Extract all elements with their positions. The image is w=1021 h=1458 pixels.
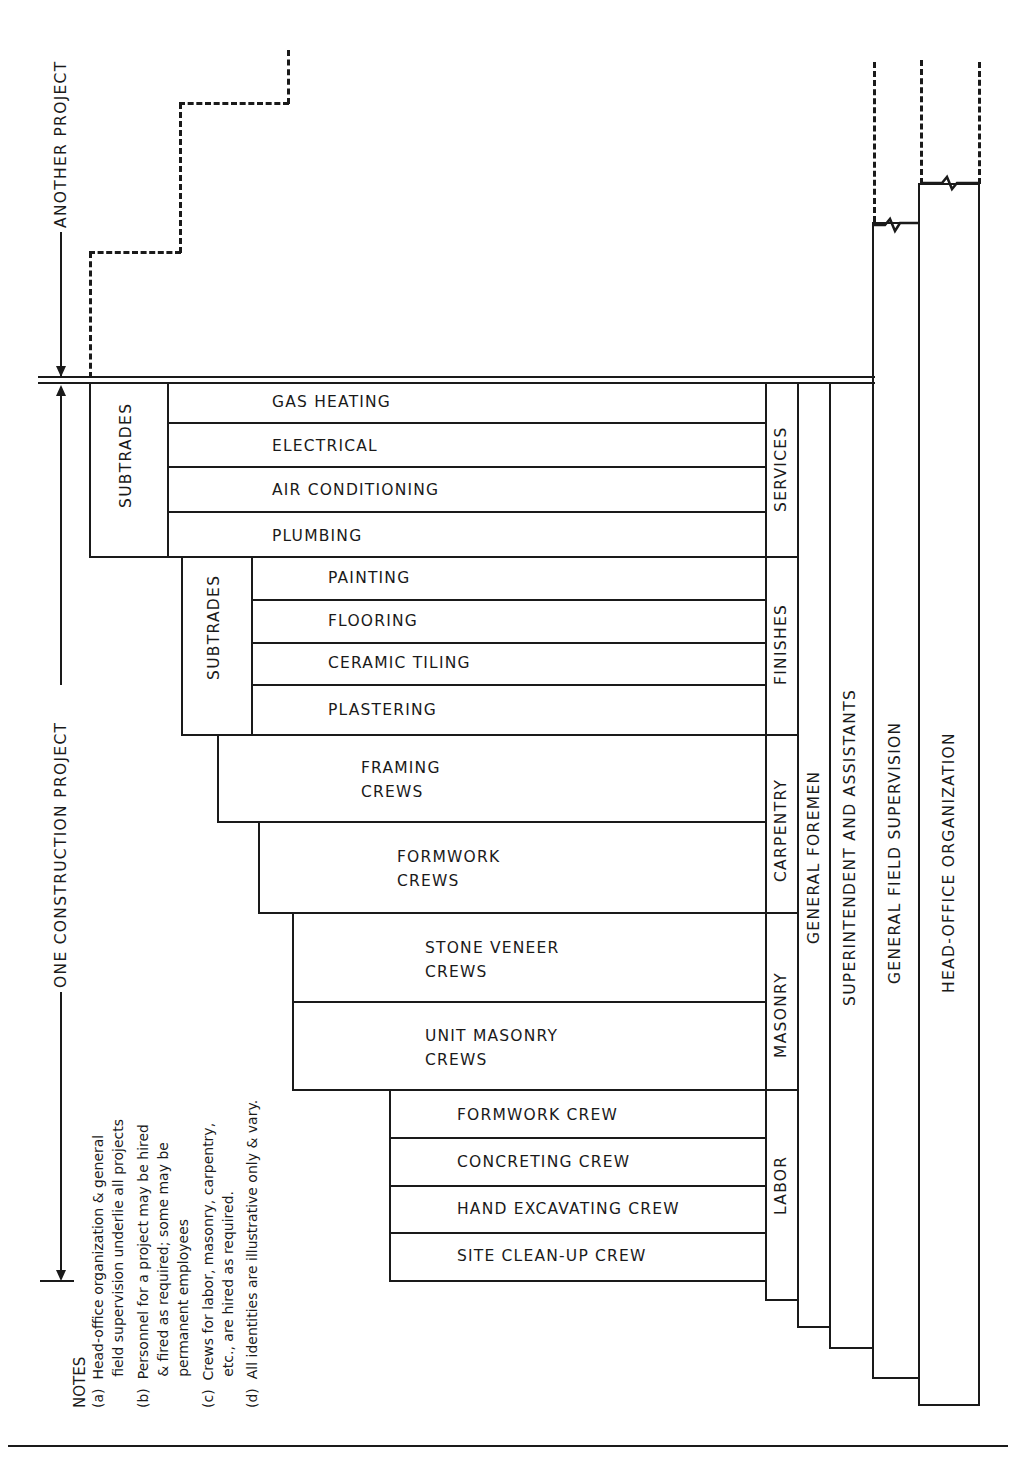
service-item: ELECTRICAL (272, 435, 378, 457)
service-item: GAS HEATING (272, 391, 391, 413)
finish-item: FLOORING (328, 610, 418, 632)
category-carpentry: CARPENTRY (772, 779, 790, 882)
head-office-organization: HEAD-OFFICE ORGANIZATION (918, 183, 980, 1406)
stone-veneer-line1: STONE VENEER (425, 936, 560, 960)
note-b: (b) Personnel for a project may be hired… (133, 1124, 193, 1408)
finish-item: PLASTERING (328, 699, 437, 721)
formwork-crews: FORMWORK CREWS (258, 821, 766, 914)
subtrades-label: SUBTRADES (117, 403, 135, 508)
general-field-supervision: GENERAL FIELD SUPERVISION (872, 222, 920, 1379)
finish-item: PAINTING (328, 567, 410, 589)
general-foremen: GENERAL FOREMEN (797, 382, 831, 1328)
category-services: SERVICES (772, 426, 790, 512)
formwork-crews-line1: FORMWORK (397, 845, 500, 869)
general-foremen-label: GENERAL FOREMEN (805, 771, 823, 944)
note-a: (a) Head-office organization & general f… (88, 1119, 128, 1408)
framing-crews: FRAMING CREWS (217, 734, 766, 823)
labor-item: HAND EXCAVATING CREW (457, 1198, 680, 1220)
labor-item: FORMWORK CREW (457, 1104, 618, 1126)
service-item: AIR CONDITIONING (272, 479, 439, 501)
service-item: PLUMBING (272, 525, 362, 547)
note-c: (c) Crews for labor, masonry, carpentry,… (198, 1123, 238, 1408)
unit-masonry-line1: UNIT MASONRY (425, 1024, 558, 1048)
superintendent-and-assistants: SUPERINTENDENT AND ASSISTANTS (829, 382, 874, 1349)
stone-veneer-line2: CREWS (425, 960, 560, 984)
finish-item: CERAMIC TILING (328, 652, 471, 674)
category-finishes: FINISHES (772, 604, 790, 685)
one-construction-project-label: ONE CONSTRUCTION PROJECT (52, 722, 70, 988)
unit-masonry-crews: UNIT MASONRY CREWS (292, 1001, 766, 1091)
notes-title: NOTES (70, 1357, 90, 1408)
stone-veneer-crews: STONE VENEER CREWS (292, 912, 766, 1003)
subtrades-services-group: SUBTRADES (89, 382, 169, 558)
head-office-label: HEAD-OFFICE ORGANIZATION (940, 732, 958, 993)
page-bottom-rule (8, 1445, 1008, 1447)
labor-item: CONCRETING CREW (457, 1151, 630, 1173)
framing-crews-line2: CREWS (361, 780, 441, 804)
general-field-supervision-label: GENERAL FIELD SUPERVISION (886, 722, 904, 984)
formwork-crews-line2: CREWS (397, 869, 500, 893)
note-d: (d) All identities are illustrative only… (242, 1100, 262, 1408)
superintendent-label: SUPERINTENDENT AND ASSISTANTS (841, 689, 859, 1006)
framing-crews-line1: FRAMING (361, 756, 441, 780)
subtrades-label: SUBTRADES (205, 575, 223, 680)
another-project-label: ANOTHER PROJECT (52, 61, 70, 228)
subtrades-finishes-group: SUBTRADES (181, 556, 253, 736)
category-masonry: MASONRY (772, 972, 790, 1058)
category-labor: LABOR (772, 1156, 790, 1215)
labor-item: SITE CLEAN-UP CREW (457, 1245, 647, 1267)
unit-masonry-line2: CREWS (425, 1048, 558, 1072)
